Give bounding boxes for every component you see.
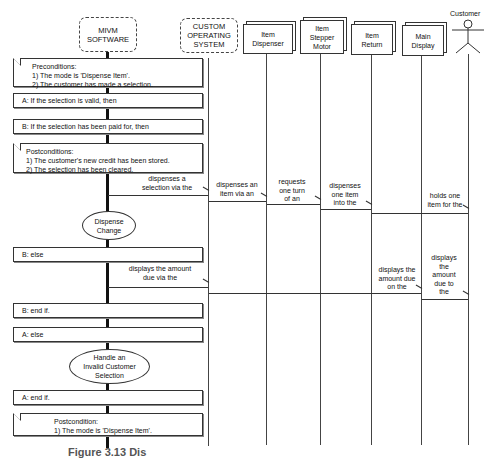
item-stepper-motor-box: ItemStepperMotor	[300, 20, 344, 54]
message-label-displays-amount-on-display: displays theamount dueon the	[372, 266, 422, 292]
use-case-handle-invalid-selection: Handle anInvalid CustomerSelection	[69, 349, 150, 384]
item-return-box: ItemReturn	[351, 24, 393, 55]
preconditions-note: Preconditions: 1) The mode is 'Dispense …	[13, 58, 203, 87]
lifeline-customer	[468, 54, 469, 445]
message-dispenses-one-item	[321, 209, 371, 210]
message-displays-amount-due	[108, 287, 208, 288]
frame-a-endif: A: end if.	[13, 390, 203, 405]
frame-b-if: B: If the selection has been paid for, t…	[13, 119, 203, 134]
lifeline-item-stepper-motor	[320, 52, 321, 445]
frame-b-else: B: else	[13, 247, 203, 262]
message-label-dispenses-selection: dispenses aselection via the	[124, 175, 210, 192]
customer-label: Customer	[450, 9, 480, 18]
use-case-dispense-change: DispenseChange	[82, 211, 136, 240]
custom-os-header: CUSTOMOPERATINGSYSTEM	[180, 18, 238, 53]
message-dispenses-selection	[108, 195, 208, 196]
frame-b-endif: B: end if.	[13, 303, 203, 318]
message-label-holds-one-item: holds oneitem for the	[422, 192, 468, 209]
message-label-dispenses-one-item: dispensesone iteminto the	[321, 182, 369, 208]
customer-actor-icon	[450, 19, 486, 55]
frame-a-if: A: If the selection is valid, then	[13, 93, 203, 108]
message-label-displays-amount-to-customer: displaystheamountdue tothe	[422, 254, 466, 297]
message-label-displays-amount-due: displays the amountdue via the	[112, 265, 208, 282]
lifeline-custom-os	[208, 58, 209, 446]
message-label-requests-one-turn: requestsone turnof an	[267, 178, 317, 204]
mivm-software-header: MIVMSOFTWARE	[79, 17, 137, 52]
figure-caption: Figure 3.13 Dis	[68, 446, 146, 458]
message-displays-amount-to-customer	[422, 299, 468, 300]
postconditions-note: Postconditions: 1) The customer's new cr…	[13, 143, 203, 173]
lifeline-item-return	[371, 52, 372, 445]
main-display-box: MainDisplay	[402, 25, 444, 56]
message-label-dispenses-item: dispenses anitem via an	[209, 181, 265, 198]
message-requests-one-turn	[267, 204, 320, 205]
message-displays-amount-on-display	[209, 293, 421, 294]
message-holds-one-item	[372, 213, 468, 214]
frame-a-else: A: else	[13, 327, 203, 342]
lifeline-main-display	[421, 54, 422, 445]
postcondition-final-note: Postcondition: 1) The mode is 'Dispense …	[13, 413, 203, 436]
message-dispenses-item	[209, 201, 266, 202]
item-dispenser-box: ItemDispenser	[243, 24, 293, 54]
lifeline-item-dispenser	[266, 52, 267, 445]
